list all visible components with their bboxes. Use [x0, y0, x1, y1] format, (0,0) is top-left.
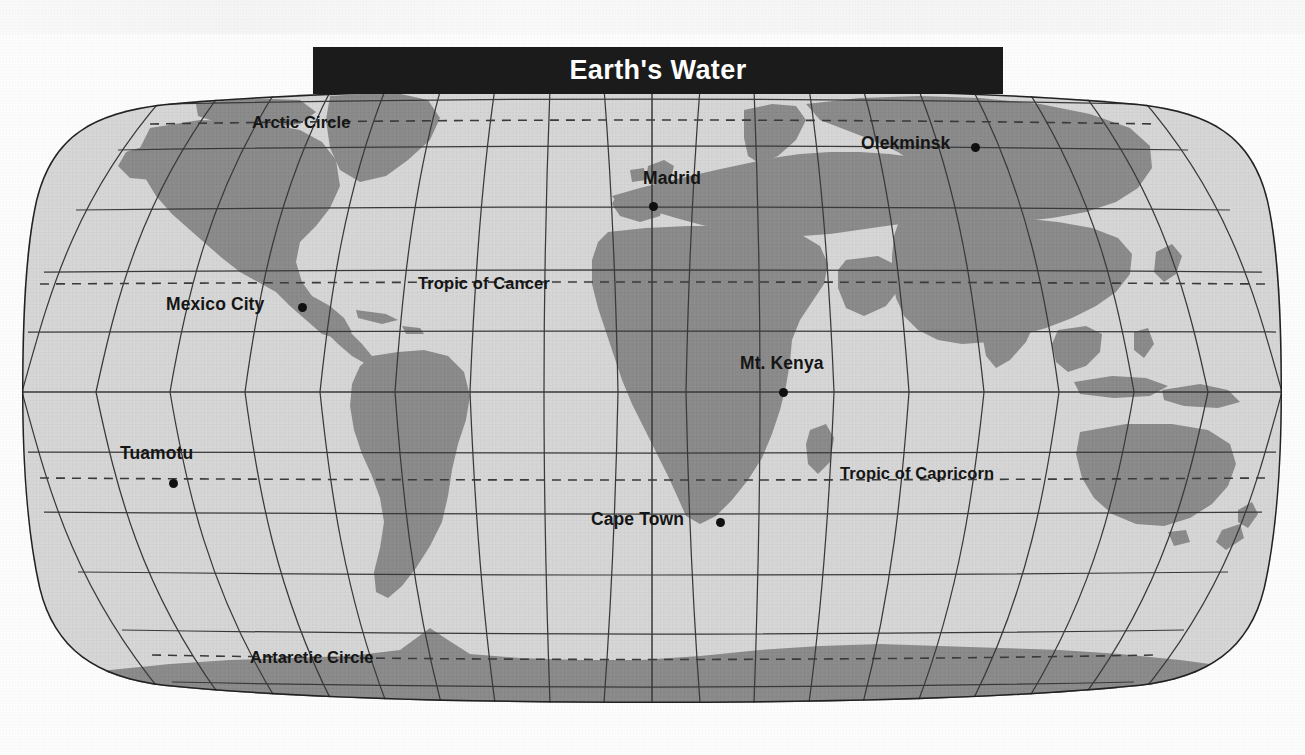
map-body [0, 0, 1305, 755]
madrid-label: Madrid [643, 168, 701, 189]
tropic-of-capricorn-label: Tropic of Capricorn [840, 464, 994, 483]
mexico-city-label: Mexico City [166, 294, 264, 315]
antarctic-circle-label: Antarctic Circle [250, 648, 374, 667]
mexico-city-marker-dot [298, 303, 307, 312]
tuamotu-label: Tuamotu [120, 443, 193, 464]
cape-town-marker-dot [716, 518, 725, 527]
tropic-of-cancer-label: Tropic of Cancer [418, 274, 550, 293]
map-page: Earth's Water Arctic Circle Tropic of Ca… [0, 0, 1305, 755]
madrid-marker-dot [649, 202, 658, 211]
olekminsk-label: Olekminsk [861, 133, 950, 154]
world-map-graphic [0, 0, 1305, 755]
arctic-circle-label: Arctic Circle [252, 113, 351, 132]
page-title: Earth's Water [313, 47, 1003, 94]
olekminsk-marker-dot [971, 143, 980, 152]
tuamotu-marker-dot [169, 479, 178, 488]
mt-kenya-label: Mt. Kenya [740, 353, 824, 374]
mt-kenya-marker-dot [779, 388, 788, 397]
cape-town-label: Cape Town [591, 509, 684, 530]
